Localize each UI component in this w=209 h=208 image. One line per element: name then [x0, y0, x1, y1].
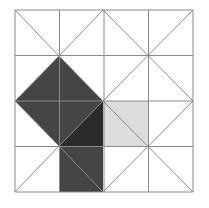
tiling-diagram	[0, 0, 209, 208]
diagonal-line	[59, 10, 103, 56]
diagonal-line	[15, 146, 59, 192]
diagonal-line	[15, 10, 59, 56]
